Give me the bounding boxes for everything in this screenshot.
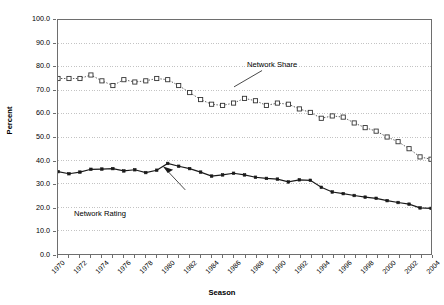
- x-tick-mark: [311, 255, 312, 258]
- annotation-network-share: Network Share: [247, 60, 297, 69]
- x-tick-mark: [68, 255, 69, 258]
- x-tick-mark: [211, 255, 212, 258]
- x-tick-mark: [90, 255, 91, 258]
- x-tick-mark: [178, 255, 179, 258]
- annotation-network-rating: Network Rating: [74, 209, 126, 218]
- x-tick-mark: [300, 255, 301, 258]
- x-tick-mark: [57, 255, 58, 258]
- x-tick-mark: [322, 255, 323, 258]
- x-tick-mark: [101, 255, 102, 258]
- x-tick-mark: [432, 255, 433, 258]
- x-tick-mark: [245, 255, 246, 258]
- x-tick-mark: [200, 255, 201, 258]
- x-tick-mark: [233, 255, 234, 258]
- x-tick-mark: [278, 255, 279, 258]
- x-tick-mark: [355, 255, 356, 258]
- x-tick-mark: [388, 255, 389, 258]
- x-axis-title: Season: [0, 288, 444, 297]
- x-tick-mark: [377, 255, 378, 258]
- x-tick-mark: [333, 255, 334, 258]
- x-tick-mark: [344, 255, 345, 258]
- chart-figure: 0.010.020.030.040.050.060.070.080.090.01…: [0, 0, 444, 305]
- x-tick-mark: [123, 255, 124, 258]
- x-tick-mark: [167, 255, 168, 258]
- x-tick-mark: [366, 255, 367, 258]
- x-tick-mark: [156, 255, 157, 258]
- x-axis-tick-labels: 1970197219741976197819801982198419861988…: [0, 0, 444, 305]
- x-tick-mark: [410, 255, 411, 258]
- x-tick-mark: [399, 255, 400, 258]
- x-tick-mark: [222, 255, 223, 258]
- x-tick-mark: [134, 255, 135, 258]
- x-tick-mark: [289, 255, 290, 258]
- x-tick-mark: [145, 255, 146, 258]
- x-tick-mark: [112, 255, 113, 258]
- x-tick-mark: [421, 255, 422, 258]
- x-tick-mark: [256, 255, 257, 258]
- x-tick-mark: [79, 255, 80, 258]
- x-tick-mark: [189, 255, 190, 258]
- x-tick-mark: [267, 255, 268, 258]
